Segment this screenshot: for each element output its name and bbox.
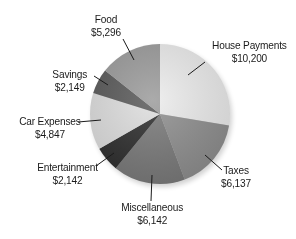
slice-label-value: $4,847 [19,128,80,141]
slice-label-value: $2,142 [37,174,98,187]
slice-label-savings: Savings$2,149 [52,68,87,94]
slice-label-name: House Payments [212,39,287,52]
slice-label-name: Taxes [221,164,251,177]
slice-label-name: Miscellaneous [121,201,183,214]
slice-label-name: Food [91,13,121,26]
slice-label-value: $10,200 [212,52,287,65]
slice-label-taxes: Taxes$6,137 [221,164,251,190]
slice-label-house-payments: House Payments$10,200 [212,39,287,65]
slice-label-miscellaneous: Miscellaneous$6,142 [121,201,183,227]
slice-label-value: $6,142 [121,214,183,227]
slice-label-value: $5,296 [91,26,121,39]
slice-label-name: Savings [52,68,87,81]
slice-label-name: Entertainment [37,161,98,174]
slice-label-food: Food$5,296 [91,13,121,39]
slice-label-value: $6,137 [221,177,251,190]
pie-shading [90,44,230,184]
slice-label-car-expenses: Car Expenses$4,847 [19,115,80,141]
slice-label-name: Car Expenses [19,115,80,128]
slice-label-entertainment: Entertainment$2,142 [37,161,98,187]
slice-label-value: $2,149 [52,81,87,94]
